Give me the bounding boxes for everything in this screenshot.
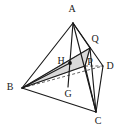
vertex-label-G: G [64, 88, 71, 99]
vertex-label-D: D [106, 60, 113, 71]
edge-B-C [22, 88, 96, 112]
geometry-figure: A B C D G H P Q [0, 0, 119, 130]
vertex-label-P: P [87, 56, 93, 67]
vertex-label-B: B [7, 81, 14, 92]
point-dot-H [68, 61, 72, 65]
marked-point-group [68, 61, 72, 65]
edge-A-G [68, 23, 73, 87]
vertex-label-H: H [57, 55, 64, 66]
edge-C-D [96, 66, 103, 112]
vertex-label-C: C [95, 115, 102, 126]
vertex-label-A: A [68, 3, 76, 14]
edge-A-Q [73, 23, 90, 48]
tetrahedron-diagram: A B C D G H P Q [0, 0, 119, 130]
vertex-label-Q: Q [91, 33, 99, 44]
